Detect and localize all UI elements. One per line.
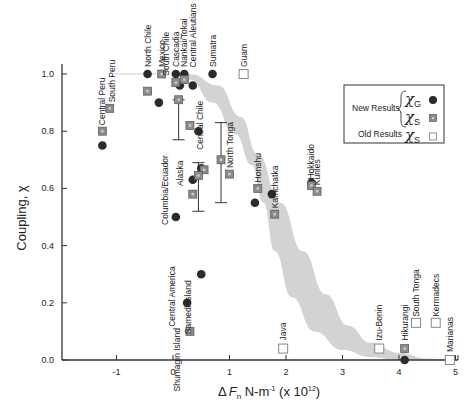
legend-old-results-label: Old Results	[358, 129, 402, 139]
point-label: Samedi Island	[183, 280, 193, 334]
point-label: Java	[278, 322, 288, 340]
y-tick-label: 0.4	[41, 241, 54, 251]
chi-g-point	[251, 198, 260, 207]
chi-s-point-center	[316, 190, 318, 192]
y-tick-label: 0.2	[41, 298, 54, 308]
legend-old-marker	[430, 133, 437, 140]
chi-g-point	[197, 270, 206, 279]
legend-new-results-label: New Results	[352, 103, 400, 113]
x-tick-label: -1	[112, 367, 120, 377]
chi-g-point	[98, 141, 107, 150]
y-tick-label: 0.8	[41, 126, 54, 136]
x-axis-title: ΔFn N-m-1 (x 1012)	[218, 384, 320, 401]
chi-s-point-center	[274, 213, 276, 215]
old-chi-s-point	[411, 318, 420, 327]
coupling-scatter-chart: 0.00.20.40.60.81.0-1012345 Central PeruS…	[0, 0, 472, 416]
chi-g-point	[172, 213, 181, 222]
chi-g-point	[208, 70, 217, 79]
point-label: Guam	[239, 44, 249, 67]
chi-s-point-center	[146, 90, 148, 92]
old-chi-s-point	[431, 318, 440, 327]
chi-s-point-center	[101, 130, 103, 132]
point-label: Central Chile	[195, 100, 205, 149]
chi-g-point	[172, 70, 181, 79]
point-label: South Chile	[161, 32, 171, 76]
point-label: Kamchatka	[270, 165, 280, 208]
point-label: Marianas	[445, 317, 455, 352]
chi-s-point-center	[403, 347, 405, 349]
point-label: Central Aleutians	[188, 3, 198, 67]
old-chi-s-point	[445, 356, 454, 365]
point-label: Kermadecs	[431, 274, 441, 317]
chi-s-point-center	[175, 81, 177, 83]
chi-s-point-center	[257, 187, 259, 189]
point-label: Columbia/Ecuador	[160, 155, 170, 225]
chi-s-point-center	[177, 99, 179, 101]
legend: New Results χG χS Old Results χS	[344, 85, 444, 145]
y-axis-title: Coupling, χ	[14, 185, 29, 251]
old-chi-s-point	[279, 344, 288, 353]
chi-g-point	[155, 98, 164, 107]
chi-s-point-center	[203, 169, 205, 171]
point-label: Honshu	[253, 153, 263, 183]
chi-g-point	[143, 70, 152, 79]
point-label: North Chile	[143, 24, 153, 67]
point-labels: Central PeruSouth PeruMexicoSouth ChileC…	[97, 3, 454, 391]
old-chi-s-point	[239, 70, 248, 79]
point-label: South Tonga	[411, 269, 421, 317]
point-label: Alaska	[175, 160, 185, 186]
chi-s-point-center	[228, 173, 230, 175]
chi-s-point-center	[192, 193, 194, 195]
x-tick-label: 2	[283, 367, 288, 377]
x-tick-label: 3	[340, 367, 345, 377]
chi-s-point-center	[220, 159, 222, 161]
point-label: Sumatra	[208, 35, 218, 67]
x-tick-label: 4	[396, 367, 401, 377]
point-label: South Peru	[107, 60, 117, 103]
chi-g-point	[188, 81, 197, 90]
point-label: North Tonga	[225, 122, 235, 168]
legend-chi-s-marker	[430, 115, 437, 122]
y-tick-label: 0.0	[41, 355, 54, 365]
y-tick-label: 1.0	[41, 69, 54, 79]
legend-chi-g-marker	[429, 96, 437, 104]
x-tick-label: 5	[453, 367, 458, 377]
chi-s-point-center	[189, 124, 191, 126]
point-label: Kuriles	[312, 159, 322, 185]
old-chi-s-point	[375, 344, 384, 353]
point-label: Izu-Bonin	[374, 304, 384, 340]
chi-s-point-center	[183, 79, 185, 81]
chi-g-point	[400, 356, 409, 365]
point-label: Central America	[167, 266, 177, 327]
y-tick-label: 0.6	[41, 183, 54, 193]
point-label: Shumagin Island	[172, 328, 182, 392]
chi-s-point-center	[109, 107, 111, 109]
point-label: Hikurangi	[400, 305, 410, 341]
x-tick-label: 1	[227, 367, 232, 377]
chi-s-point-center	[197, 174, 199, 176]
